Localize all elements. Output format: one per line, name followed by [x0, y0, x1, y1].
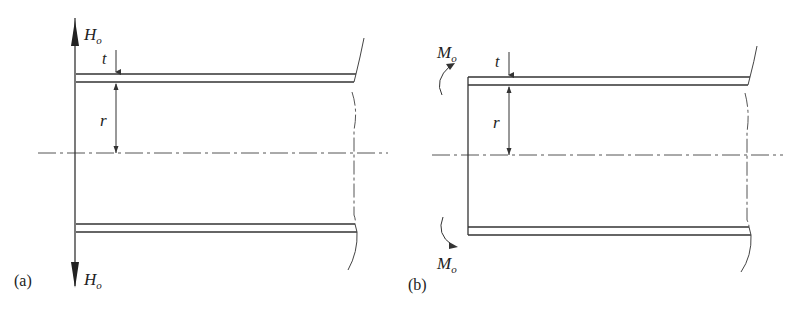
- break-line-middle-b: [745, 93, 749, 227]
- break-line-bottom-a: [348, 224, 357, 270]
- caption-b: (b): [408, 276, 427, 294]
- label-radius-a: r: [100, 111, 107, 130]
- cylindrical-shell-diagram: Ho Ho t r (a) Mo Mo t: [0, 0, 803, 313]
- break-line-top-a: [354, 38, 364, 82]
- break-line-middle-a: [352, 92, 356, 224]
- moment-arrow-bottom-icon: [441, 217, 452, 245]
- force-arrow-down-icon: [71, 262, 79, 288]
- label-force-bottom-a: Ho: [83, 270, 102, 291]
- label-moment-top-b: Mo: [436, 43, 457, 64]
- r-arrow-top-icon: [114, 83, 119, 90]
- moment-arrowhead-bottom-icon: [449, 242, 458, 249]
- r-arrow-bottom-icon: [114, 146, 119, 153]
- r-arrow-bottom-icon-b: [507, 148, 512, 155]
- panel-b: Mo Mo t r (b): [408, 43, 783, 294]
- label-force-top-a: Ho: [83, 25, 102, 46]
- caption-a: (a): [14, 272, 32, 290]
- r-arrow-top-icon-b: [507, 86, 512, 93]
- break-line-top-b: [748, 46, 757, 85]
- label-moment-bottom-b: Mo: [436, 254, 457, 275]
- panel-a: Ho Ho t r (a): [14, 18, 388, 291]
- break-line-bottom-b: [741, 227, 751, 272]
- moment-arrow-top-icon: [439, 66, 450, 95]
- label-radius-b: r: [493, 113, 500, 132]
- label-thickness-a: t: [102, 50, 107, 67]
- force-arrow-up-icon: [71, 20, 79, 46]
- label-thickness-b: t: [495, 53, 500, 70]
